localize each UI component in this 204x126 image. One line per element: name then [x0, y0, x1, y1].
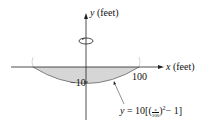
leader-line — [114, 82, 124, 104]
x-axis-label: x (feet) — [166, 62, 195, 72]
y-axis-label: y (feet) — [90, 8, 119, 18]
eq-tail: − 1] — [166, 105, 182, 116]
x-tick-label: 100 — [132, 72, 147, 82]
faint-curve-left — [32, 57, 33, 67]
y-axis-arrow-icon — [84, 13, 88, 19]
y-tick-label: −10 — [70, 78, 86, 88]
figure-rotation-paraboloid: y (feet) x (feet) 100 −10 y = 10[(x100)2… — [0, 0, 204, 126]
equation-label: y = 10[(x100)2− 1] — [120, 102, 182, 118]
eq-lhs: y — [120, 105, 124, 116]
eq-part: = 10[( — [127, 105, 152, 116]
y-unit: (feet) — [97, 7, 119, 18]
faint-curve-right — [139, 57, 140, 67]
x-axis-arrow-icon — [158, 65, 164, 69]
x-var: x — [166, 61, 170, 72]
x-unit: (feet) — [173, 61, 195, 72]
y-var: y — [90, 7, 94, 18]
